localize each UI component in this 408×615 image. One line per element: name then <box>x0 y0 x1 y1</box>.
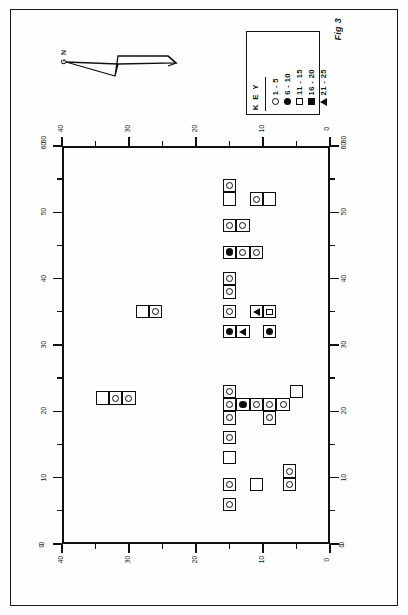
grid-cell <box>283 478 296 491</box>
filled-circle-icon <box>284 95 292 108</box>
filled-circle-icon <box>266 328 274 336</box>
axis-tick <box>162 141 163 146</box>
open-circle-icon <box>226 275 233 282</box>
key-entry-label: 1 - 5 <box>271 78 280 95</box>
grid-cell <box>250 246 263 259</box>
grid-cell <box>250 192 263 205</box>
axis-tick <box>195 544 197 553</box>
axis-tick-label: 60 <box>40 136 47 144</box>
axis-tick-label: 10 <box>258 125 265 133</box>
axis-tick <box>128 544 130 553</box>
grid-cell <box>236 325 249 338</box>
axis-tick <box>330 411 339 413</box>
axis-tick <box>330 178 335 179</box>
axis-tick <box>53 344 62 346</box>
open-circle-icon <box>286 481 293 488</box>
open-circle-icon <box>226 222 233 229</box>
grid-cell <box>223 325 236 338</box>
grid-cell <box>149 305 162 318</box>
axis-tick <box>330 377 335 378</box>
key-entry-label: 16 - 20 <box>307 69 316 95</box>
axis-tick <box>53 543 62 545</box>
open-circle-icon <box>226 414 233 421</box>
grid-cell <box>223 498 236 511</box>
open-circle-icon <box>253 249 260 256</box>
grid-cell <box>223 451 236 464</box>
axis-tick-label: 40 <box>57 125 64 133</box>
grid-cell <box>223 246 236 259</box>
axis-tick <box>61 544 63 553</box>
axis-tick-label: 20 <box>191 125 198 133</box>
axis-tick <box>57 510 62 511</box>
grid-cell <box>263 192 276 205</box>
axis-left <box>62 146 64 544</box>
figure-caption: Fig 3 <box>333 18 343 41</box>
axis-tick-label: 50 <box>340 208 347 216</box>
open-circle-icon <box>226 501 233 508</box>
figure-sheet: Fig 3 G N K E Y 1 - 5 6 - 10 11 <box>0 0 408 615</box>
axis-tick-label: 40 <box>40 274 47 282</box>
grid-cell <box>122 391 135 404</box>
axis-tick-label: 10 <box>340 473 347 481</box>
open-circle-icon <box>286 468 293 475</box>
axis-tick <box>53 212 62 214</box>
open-circle-icon <box>152 308 159 315</box>
grid-cell <box>223 411 236 424</box>
north-arrow-icon <box>60 42 180 84</box>
open-square-icon <box>266 309 273 316</box>
open-circle-icon <box>253 196 260 203</box>
grid-cell <box>223 478 236 491</box>
axis-tick-label: 0 <box>38 544 45 548</box>
key-entry-label: 11 - 15 <box>295 69 304 95</box>
axis-tick <box>330 444 335 445</box>
axis-tick-label: 0 <box>323 558 330 562</box>
axis-tick <box>53 411 62 413</box>
axis-tick-label: 40 <box>57 556 64 564</box>
open-circle-icon <box>226 288 233 295</box>
grid-cell <box>223 431 236 444</box>
triangle-icon <box>320 95 327 108</box>
axis-tick <box>330 510 335 511</box>
axis-tick <box>330 344 339 346</box>
grid-cell <box>223 285 236 298</box>
grid-cell <box>223 179 236 192</box>
axis-tick <box>128 137 130 146</box>
key-legend-box: K E Y 1 - 5 6 - 10 11 - 15 <box>246 31 320 115</box>
grid-cell <box>283 464 296 477</box>
axis-tick <box>53 278 62 280</box>
axis-tick-label: 10 <box>40 473 47 481</box>
filled-circle-icon <box>226 248 234 256</box>
filled-circle-icon <box>239 401 247 409</box>
axis-tick <box>57 178 62 179</box>
grid-cell <box>223 398 236 411</box>
filled-circle-icon <box>226 328 234 336</box>
axis-tick <box>296 141 297 146</box>
open-circle-icon <box>226 308 233 315</box>
grid-cell <box>136 305 149 318</box>
grid-cell <box>223 219 236 232</box>
open-circle-icon <box>226 182 233 189</box>
axis-tick <box>262 544 264 553</box>
axis-tick-label: 30 <box>124 556 131 564</box>
axis-tick-label: 0 <box>323 127 330 131</box>
open-circle-icon <box>112 395 119 402</box>
open-circle-icon <box>226 434 233 441</box>
key-entry-label: 21 - 25 <box>319 69 328 95</box>
open-circle-icon <box>226 401 233 408</box>
grid-cell <box>250 398 263 411</box>
grid-cell <box>223 305 236 318</box>
key-entry-4: 21 - 25 <box>317 69 330 110</box>
axis-tick <box>57 377 62 378</box>
grid-cell <box>276 398 289 411</box>
grid-cell <box>236 398 249 411</box>
grid-cell <box>223 385 236 398</box>
axis-tick <box>162 544 163 549</box>
open-circle-icon <box>266 401 273 408</box>
open-circle-icon <box>239 249 246 256</box>
axis-tick <box>57 245 62 246</box>
axis-tick-label: 40 <box>340 274 347 282</box>
axis-tick-label: 20 <box>340 407 347 415</box>
axis-tick-label: 60 <box>340 136 347 144</box>
axis-tick <box>330 278 339 280</box>
grid-cell <box>236 219 249 232</box>
